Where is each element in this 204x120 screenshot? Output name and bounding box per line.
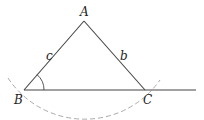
- dashed-circle-arc: [8, 78, 160, 119]
- side-label-c: c: [46, 49, 53, 63]
- side-b-line: [84, 21, 145, 90]
- triangle-diagram: A B C c b: [0, 0, 204, 120]
- side-c-line: [24, 21, 84, 90]
- vertex-label-b: B: [13, 93, 23, 107]
- vertex-label-a: A: [79, 5, 89, 19]
- side-label-b: b: [120, 49, 128, 63]
- vertex-label-c: C: [143, 93, 152, 107]
- angle-b-mark: [37, 75, 44, 90]
